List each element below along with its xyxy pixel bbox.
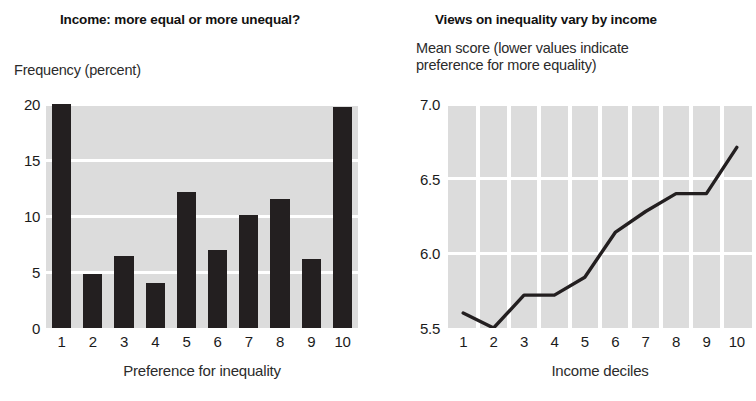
line-chart-x-axis-caption: Income deciles <box>448 362 752 379</box>
line-chart-x-tick-label: 2 <box>478 333 508 355</box>
bar-chart-title: Income: more equal or more unequal? <box>60 12 300 27</box>
bar-chart-y-tick-label: 0 <box>6 320 40 337</box>
bar <box>302 259 321 328</box>
bar-chart-x-tick-label: 1 <box>46 333 77 355</box>
line-chart-x-tick-label: 6 <box>600 333 630 355</box>
figure-container: Income: more equal or more unequal? Freq… <box>0 0 756 401</box>
line-chart-x-tick-label: 7 <box>630 333 660 355</box>
line-chart-x-tick-label: 3 <box>509 333 539 355</box>
bar <box>208 250 227 328</box>
bar-chart-x-tick-label: 5 <box>171 333 202 355</box>
line-path <box>463 147 737 328</box>
bar <box>83 274 102 328</box>
line-chart-y-tick-label: 6.5 <box>396 170 440 187</box>
bar-chart-y-tick-label: 10 <box>6 208 40 225</box>
bar-chart-y-tick-label: 20 <box>6 96 40 113</box>
bar-chart-x-tick-label: 7 <box>233 333 264 355</box>
line-chart-x-tick-label: 4 <box>539 333 569 355</box>
bar-chart-plot-area <box>46 104 358 328</box>
line-chart-y-axis-note-line-1: Mean score (lower values indicate <box>416 40 716 57</box>
bar <box>114 256 133 328</box>
bar-chart-gridline <box>46 103 358 106</box>
line-chart-title: Views on inequality vary by income <box>435 12 657 27</box>
bar <box>177 192 196 328</box>
bar-chart-gridline <box>46 159 358 162</box>
bar-chart-gridline <box>46 215 358 218</box>
bar <box>239 215 258 328</box>
bar-chart-y-tick-label: 15 <box>6 152 40 169</box>
bar <box>52 104 71 328</box>
line-chart-x-tick-label: 9 <box>691 333 721 355</box>
bar-chart-x-tick-labels: 12345678910 <box>46 333 358 355</box>
bar-chart-x-axis-caption: Preference for inequality <box>46 362 358 379</box>
bar-chart-x-tick-label: 3 <box>108 333 139 355</box>
line-chart-y-axis-note: Mean score (lower values indicate prefer… <box>416 40 716 74</box>
line-chart-y-tick-label: 6.0 <box>396 245 440 262</box>
line-chart-x-tick-label: 5 <box>570 333 600 355</box>
bar <box>333 107 352 328</box>
bar-chart-x-tick-label: 2 <box>77 333 108 355</box>
bar-chart-y-tick-label: 5 <box>6 264 40 281</box>
line-chart-x-tick-labels: 12345678910 <box>448 333 752 355</box>
line-chart-x-tick-label: 1 <box>448 333 478 355</box>
bar-chart-x-tick-label: 10 <box>327 333 358 355</box>
line-chart-y-axis-note-line-2: preference for more equality) <box>416 57 716 74</box>
bar-chart-x-tick-label: 4 <box>140 333 171 355</box>
line-chart-x-tick-label: 8 <box>661 333 691 355</box>
bar <box>146 283 165 328</box>
line-chart-plot-area <box>448 104 752 328</box>
bar <box>270 199 289 328</box>
bar-chart-y-axis-note: Frequency (percent) <box>14 62 141 79</box>
bar-chart-x-tick-label: 9 <box>296 333 327 355</box>
bar-chart-panel: Income: more equal or more unequal? Freq… <box>0 0 378 401</box>
line-chart-x-tick-label: 10 <box>722 333 752 355</box>
line-chart-y-tick-label: 7.0 <box>396 96 440 113</box>
line-series <box>448 104 752 328</box>
line-chart-y-tick-label: 5.5 <box>396 320 440 337</box>
bar-chart-x-tick-label: 6 <box>202 333 233 355</box>
bar-chart-x-tick-label: 8 <box>264 333 295 355</box>
